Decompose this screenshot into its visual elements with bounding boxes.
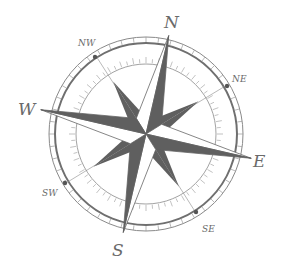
label-nw: NW <box>77 38 96 48</box>
ne-dot <box>225 84 229 88</box>
rose-points <box>18 11 274 256</box>
cardinal-points <box>18 11 274 256</box>
se-dot <box>194 210 198 214</box>
sw-dot <box>63 181 67 185</box>
nw-dot <box>93 55 97 59</box>
label-sw: SW <box>42 188 58 198</box>
compass-rose: N E S W NE SE SW NW <box>0 0 282 272</box>
label-ne: NE <box>231 74 247 84</box>
label-s: S <box>112 240 124 260</box>
label-e: E <box>252 151 266 171</box>
label-n: N <box>163 12 180 32</box>
label-w: W <box>18 99 37 119</box>
label-se: SE <box>202 224 215 234</box>
